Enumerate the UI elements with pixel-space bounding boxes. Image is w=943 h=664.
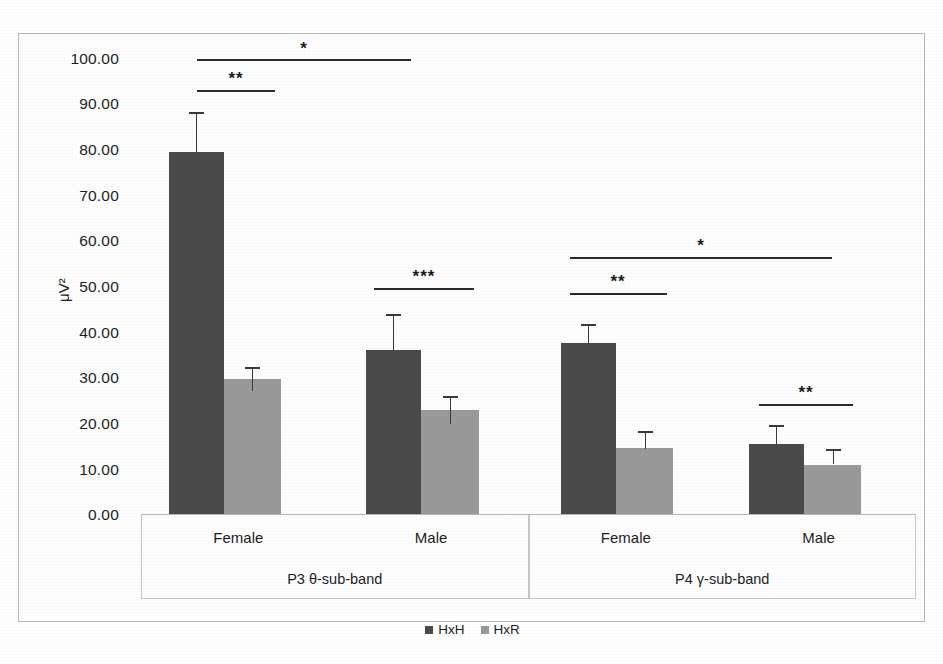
y-tick-label-10: 10.00: [41, 462, 119, 478]
sig-line-p4-male: [759, 404, 853, 406]
errorbar-p4-female-hxh: [588, 324, 590, 344]
y-tick-label-70: 70.00: [41, 188, 119, 204]
group-label-p4: P4 γ-sub-band: [530, 559, 916, 599]
group-box-p4: Female Male P4 γ-sub-band: [529, 515, 917, 599]
y-tick-label-40: 40.00: [41, 325, 119, 341]
sig-star-p4-male: **: [776, 384, 836, 401]
errorbar-cap-p3-female-hxr: [245, 367, 260, 369]
errorbar-cap-p3-male-hxr: [443, 396, 458, 398]
errorbar-cap-p4-female-hxr: [638, 431, 653, 433]
bar-p3-male-hxh[interactable]: [366, 350, 421, 514]
category-label-p3-male: Male: [335, 515, 528, 559]
errorbar-cap-p3-male-hxh: [386, 314, 401, 316]
errorbar-p4-female-hxr: [645, 431, 647, 449]
errorbar-p4-male-hxr: [833, 449, 835, 464]
y-tick-label-50: 50.00: [41, 279, 119, 295]
legend-label-hxr: HxR: [494, 622, 520, 637]
figure-frame: μV² 100.00 90.00 80.00 70.00 60.00 50.00…: [18, 33, 925, 622]
sig-line-p3-female: [197, 90, 275, 92]
group-label-p3: P3 θ-sub-band: [142, 559, 528, 599]
category-label-band: Female Male P3 θ-sub-band Female Male P4…: [141, 515, 916, 599]
plot-area: μV² 100.00 90.00 80.00 70.00 60.00 50.00…: [19, 34, 926, 623]
y-tick-label-0: 0.00: [41, 507, 119, 523]
errorbar-p3-male-hxr: [450, 396, 452, 424]
errorbar-p3-female-hxh: [196, 112, 198, 152]
bar-p4-male-hxh[interactable]: [749, 444, 804, 514]
category-row-p4: Female Male: [530, 515, 916, 559]
bar-p3-female-hxr[interactable]: [224, 379, 281, 514]
sig-star-p4-female: **: [588, 273, 648, 290]
errorbar-p3-male-hxh: [393, 314, 395, 351]
bar-p4-male-hxr[interactable]: [804, 465, 861, 514]
category-label-p4-male: Male: [722, 515, 915, 559]
errorbar-cap-p4-male-hxh: [769, 425, 784, 427]
sig-star-p3-female: **: [206, 70, 266, 87]
sig-line-p3-male: [374, 288, 474, 290]
group-box-p3: Female Male P3 θ-sub-band: [141, 515, 529, 599]
y-tick-label-20: 20.00: [41, 416, 119, 432]
sig-star-p4-across: *: [671, 237, 731, 254]
y-tick-label-60: 60.00: [41, 233, 119, 249]
legend-item-hxh[interactable]: HxH: [425, 622, 464, 637]
chart-legend: HxH HxR: [19, 622, 926, 637]
sig-star-p3-across: *: [274, 40, 334, 57]
sig-line-p4-across: [570, 257, 832, 259]
y-tick-label-100: 100.00: [41, 51, 119, 67]
sig-line-p4-female: [570, 293, 667, 295]
legend-label-hxh: HxH: [438, 622, 464, 637]
errorbar-cap-p3-female-hxh: [189, 112, 204, 114]
errorbar-p4-male-hxh: [776, 425, 778, 445]
errorbar-cap-p4-male-hxr: [826, 449, 841, 451]
legend-swatch-hxr: [481, 626, 489, 634]
sig-line-p3-across: [197, 59, 411, 61]
legend-swatch-hxh: [425, 626, 433, 634]
category-row-p3: Female Male: [142, 515, 528, 559]
bar-p3-male-hxr[interactable]: [421, 410, 479, 514]
bar-p4-female-hxh[interactable]: [561, 343, 616, 514]
y-tick-label-90: 90.00: [41, 96, 119, 112]
category-label-p4-female: Female: [530, 515, 723, 559]
errorbar-cap-p4-female-hxh: [581, 324, 596, 326]
bar-p3-female-hxh[interactable]: [169, 152, 224, 514]
y-tick-label-80: 80.00: [41, 142, 119, 158]
errorbar-p3-female-hxr: [252, 367, 254, 391]
sig-star-p3-male: ***: [394, 268, 454, 285]
category-label-p3-female: Female: [142, 515, 335, 559]
y-tick-label-30: 30.00: [41, 370, 119, 386]
bar-p4-female-hxr[interactable]: [616, 448, 673, 514]
legend-item-hxr[interactable]: HxR: [481, 622, 520, 637]
